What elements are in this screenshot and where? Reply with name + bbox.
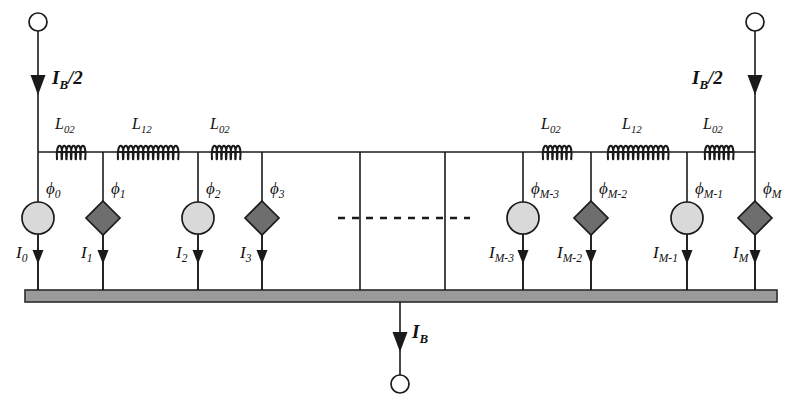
current-arrow-branch-0 — [33, 250, 44, 264]
squid-circle-branch-2[interactable] — [182, 202, 214, 234]
terminal-circle-top-right[interactable] — [746, 13, 764, 31]
bias-label-bottom: IB — [412, 322, 428, 346]
bias-arrow-top-right — [748, 75, 763, 95]
flux-subscript: 3 — [279, 188, 285, 201]
inductor-label-L-left-1: L02 — [55, 116, 75, 135]
squid-circle-branch-M-1[interactable] — [671, 202, 703, 234]
current-arrow-branch-3 — [257, 250, 268, 264]
terminal-circle-top-left[interactable] — [29, 13, 47, 31]
current-subscript: M-2 — [563, 252, 582, 265]
inductor-subscript: 02 — [712, 123, 723, 135]
inductor-symbol: L — [132, 115, 141, 132]
inductor-subscript: 12 — [141, 123, 152, 135]
flux-subscript: 2 — [215, 188, 221, 201]
flux-symbol: ϕ — [111, 179, 120, 198]
flux-label-branch-0: ϕ0 — [46, 180, 61, 201]
current-subscript: 1 — [87, 252, 93, 265]
inductor-L-right-3 — [704, 146, 734, 160]
circuit-diagram: IB/2 IB/2 IB L02L12L02L02L12L02ϕ0I0ϕ1I1ϕ… — [0, 0, 805, 406]
current-subscript: 0 — [22, 252, 28, 265]
flux-symbol: ϕ — [695, 179, 704, 198]
squid-diamond-branch-3[interactable] — [245, 201, 279, 235]
current-label-branch-1: I1 — [81, 244, 92, 265]
current-label-branch-M: IM — [733, 244, 748, 265]
flux-symbol: ϕ — [206, 179, 215, 198]
flux-label-branch-2: ϕ2 — [206, 180, 221, 201]
inductor-subscript: 02 — [219, 123, 230, 135]
inductor-subscript: 02 — [550, 123, 561, 135]
flux-subscript: M-3 — [540, 188, 559, 201]
inductor-subscript: 02 — [64, 123, 75, 135]
inductor-label-L-left-2: L12 — [132, 116, 152, 135]
inductor-symbol: L — [622, 115, 631, 132]
inductor-label-L-right-3: L02 — [703, 116, 723, 135]
inductor-subscript: 12 — [631, 123, 642, 135]
current-arrow-branch-M-1 — [682, 250, 693, 264]
flux-label-branch-1: ϕ1 — [111, 180, 126, 201]
diagram-canvas — [0, 0, 805, 406]
flux-subscript: M-2 — [608, 188, 627, 201]
bias-label-top-right: IB/2 — [692, 68, 723, 92]
current-subscript: 3 — [246, 252, 252, 265]
current-arrow-branch-M — [750, 250, 761, 264]
inductor-L-right-1 — [542, 146, 572, 160]
current-arrow-branch-M-2 — [586, 250, 597, 264]
flux-label-branch-M-3: ϕM-3 — [531, 180, 559, 201]
inductor-label-L-left-3: L02 — [210, 116, 230, 135]
inductor-L-left-1 — [56, 146, 86, 160]
current-subscript: M-1 — [659, 252, 678, 265]
inductor-label-L-right-1: L02 — [541, 116, 561, 135]
inductor-symbol: L — [210, 115, 219, 132]
flux-label-branch-M-1: ϕM-1 — [695, 180, 723, 201]
flux-symbol: ϕ — [531, 179, 540, 198]
flux-symbol: ϕ — [46, 179, 55, 198]
inductor-symbol: L — [703, 115, 712, 132]
squid-diamond-branch-M[interactable] — [738, 201, 772, 235]
inductor-L-left-3 — [211, 146, 241, 160]
flux-symbol: ϕ — [763, 179, 772, 198]
flux-symbol: ϕ — [599, 179, 608, 198]
current-label-branch-M-1: IM-1 — [653, 244, 678, 265]
bias-arrow-top-left — [31, 75, 46, 95]
squid-diamond-branch-1[interactable] — [86, 201, 120, 235]
inductor-L-left-2 — [117, 146, 179, 160]
current-label-branch-M-2: IM-2 — [557, 244, 582, 265]
current-subscript: 2 — [182, 252, 188, 265]
flux-subscript: M — [772, 188, 782, 201]
terminal-circle-bottom[interactable] — [391, 375, 409, 393]
flux-label-branch-M-2: ϕM-2 — [599, 180, 627, 201]
current-subscript: M-3 — [495, 252, 514, 265]
flux-label-branch-M: ϕM — [763, 180, 781, 201]
current-arrow-branch-1 — [98, 250, 109, 264]
inductor-symbol: L — [541, 115, 550, 132]
current-arrow-branch-2 — [193, 250, 204, 264]
squid-circle-branch-M-3[interactable] — [507, 202, 539, 234]
current-label-branch-M-3: IM-3 — [489, 244, 514, 265]
squid-circle-branch-0[interactable] — [22, 202, 54, 234]
flux-symbol: ϕ — [270, 179, 279, 198]
flux-subscript: 0 — [55, 188, 61, 201]
current-label-branch-2: I2 — [176, 244, 187, 265]
current-label-branch-3: I3 — [240, 244, 251, 265]
ground-bar — [25, 290, 777, 302]
flux-subscript: 1 — [120, 188, 126, 201]
flux-subscript: M-1 — [704, 188, 723, 201]
current-subscript: M — [739, 252, 749, 265]
current-arrow-branch-M-3 — [518, 250, 529, 264]
inductor-L-right-2 — [607, 146, 669, 160]
bias-arrow-bottom — [393, 332, 408, 352]
flux-label-branch-3: ϕ3 — [270, 180, 285, 201]
inductor-label-L-right-2: L12 — [622, 116, 642, 135]
bias-label-top-left: IB/2 — [52, 68, 83, 92]
current-label-branch-0: I0 — [16, 244, 27, 265]
squid-diamond-branch-M-2[interactable] — [574, 201, 608, 235]
inductor-symbol: L — [55, 115, 64, 132]
